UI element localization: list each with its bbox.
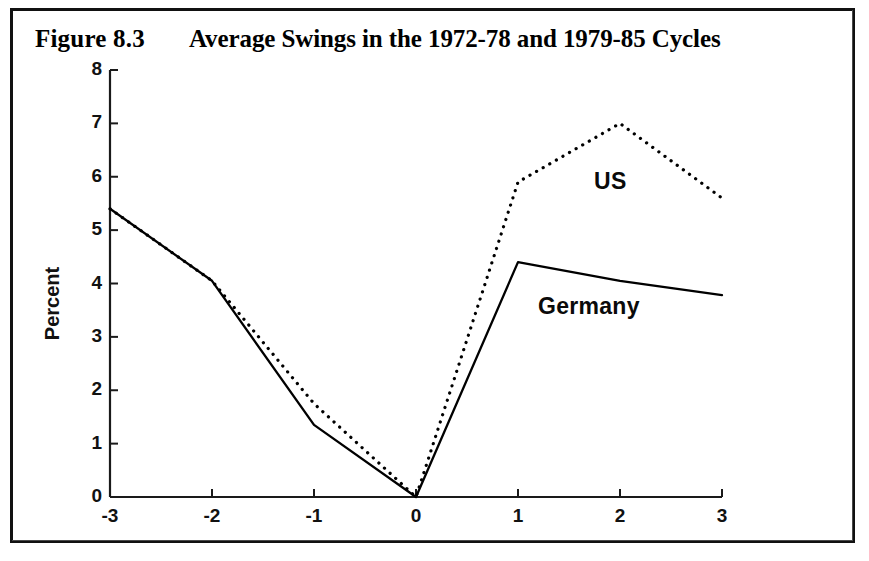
- y-tick-label: 6: [76, 165, 102, 187]
- y-tick-label: 1: [76, 432, 102, 454]
- y-tick-label: 7: [76, 111, 102, 133]
- x-tick-label: 0: [396, 505, 436, 527]
- series-label-germany: Germany: [538, 293, 640, 320]
- chart-plot-area: Percent 012345678 -3-2-10123 US Germany: [0, 0, 869, 561]
- y-tick-label: 0: [76, 485, 102, 507]
- chart-axis-layer: [110, 70, 722, 497]
- x-tick-label: -2: [192, 505, 232, 527]
- y-tick-label: 3: [76, 325, 102, 347]
- x-tick-label: -3: [90, 505, 130, 527]
- data-series-germany: [110, 209, 722, 497]
- y-tick-label: 8: [76, 58, 102, 80]
- y-tick-label: 2: [76, 378, 102, 400]
- y-tick-label: 5: [76, 218, 102, 240]
- y-axis-title: Percent: [41, 244, 64, 364]
- line-chart-svg: [0, 0, 869, 561]
- x-tick-label: 2: [600, 505, 640, 527]
- x-tick-label: -1: [294, 505, 334, 527]
- x-tick-label: 3: [702, 505, 742, 527]
- y-tick-label: 4: [76, 272, 102, 294]
- series-label-us: US: [594, 168, 627, 195]
- x-tick-label: 1: [498, 505, 538, 527]
